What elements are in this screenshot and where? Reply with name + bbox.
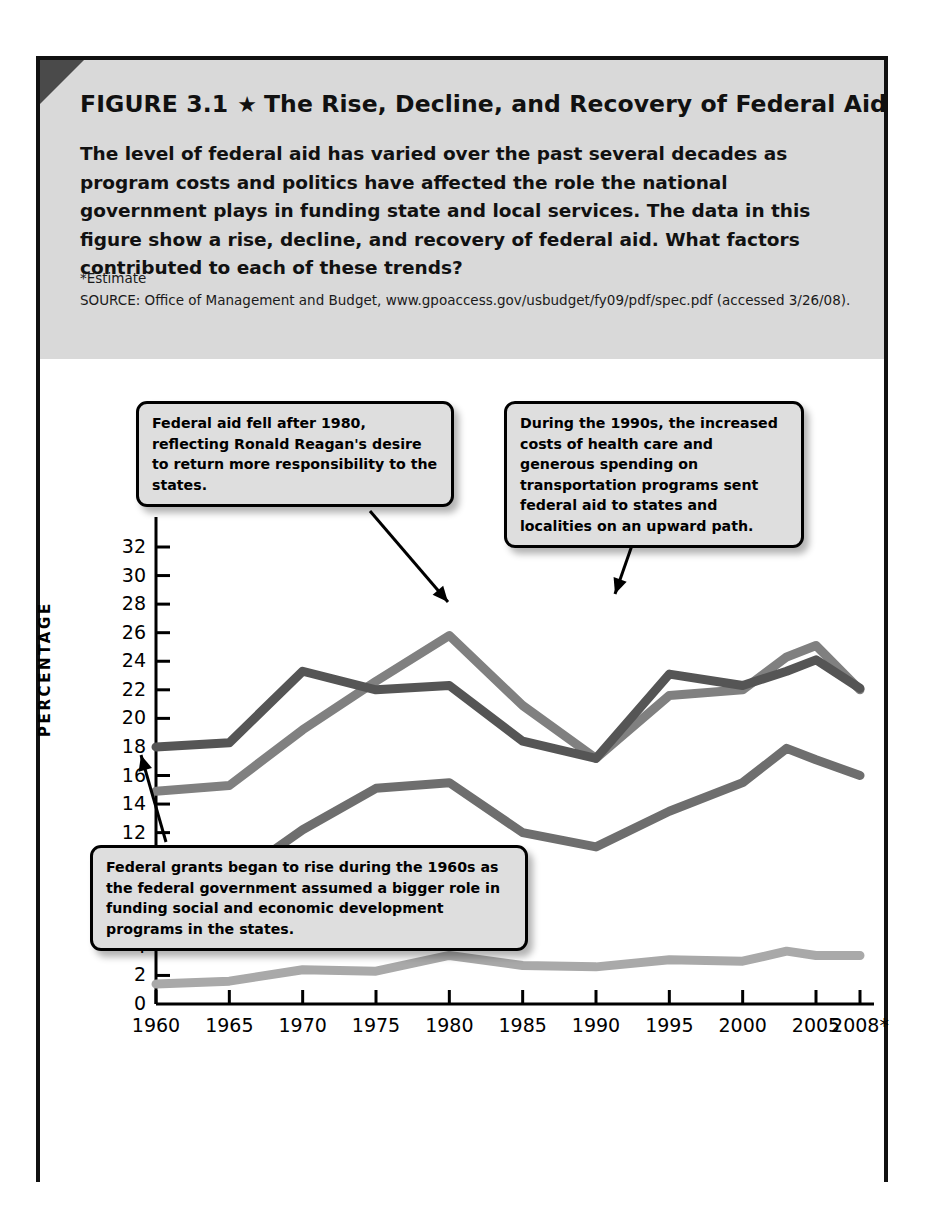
- y-tick-label: 14: [100, 792, 146, 814]
- y-tick-label: 16: [100, 764, 146, 786]
- figure-title-text: The Rise, Decline, and Recovery of Feder…: [264, 90, 884, 118]
- y-tick-label: 30: [100, 564, 146, 586]
- y-tick-label: 32: [100, 535, 146, 557]
- figure-frame: FIGURE 3.1★The Rise, Decline, and Recove…: [36, 56, 888, 1182]
- figure-title: FIGURE 3.1★The Rise, Decline, and Recove…: [80, 90, 854, 118]
- star-icon: ★: [228, 92, 264, 117]
- y-tick-label: 18: [100, 735, 146, 757]
- y-tick-label: 12: [100, 821, 146, 843]
- y-tick-label: 2: [100, 963, 146, 985]
- y-tick-label: 26: [100, 621, 146, 643]
- figure-number: FIGURE 3.1: [80, 90, 228, 118]
- figure-description: The level of federal aid has varied over…: [80, 140, 840, 283]
- corner-accent-triangle: [40, 60, 84, 104]
- x-tick-label: 2008*: [815, 1014, 905, 1036]
- y-tick-label: 20: [100, 706, 146, 728]
- annotation-callout-1990s: During the 1990s, the increased costs of…: [504, 401, 804, 548]
- annotation-callout-reagan: Federal aid fell after 1980, reflecting …: [136, 401, 454, 507]
- source-note: SOURCE: Office of Management and Budget,…: [80, 291, 860, 311]
- figure-page: FIGURE 3.1★The Rise, Decline, and Recove…: [0, 0, 928, 1232]
- chart-area: PERCENTAGE 02468101214161820222426283032…: [40, 359, 884, 1182]
- figure-header: FIGURE 3.1★The Rise, Decline, and Recove…: [40, 60, 884, 359]
- y-tick-label: 24: [100, 649, 146, 671]
- y-tick-label: 28: [100, 592, 146, 614]
- y-tick-label: 0: [100, 992, 146, 1014]
- y-tick-label: 22: [100, 678, 146, 700]
- estimate-note: *Estimate: [80, 270, 146, 286]
- annotation-callout-1960s: Federal grants began to rise during the …: [90, 845, 528, 951]
